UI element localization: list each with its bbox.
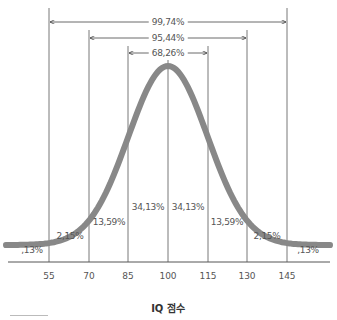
footnote-divider [10,315,48,316]
x-tick-115: 115 [199,271,216,281]
x-tick-100: 100 [159,271,176,281]
segment-label-70-85: 13,59% [93,217,126,227]
x-tick-55: 55 [43,271,54,281]
segment-label-left-tail: ,13% [21,245,43,255]
segment-label-55-70: 2,15% [56,231,83,241]
x-tick-85: 85 [122,271,133,281]
segment-label-130-145: 2,15% [253,231,280,241]
segment-label-115-130: 13,59% [211,217,244,227]
range-label-95: 95,44% [149,33,188,43]
range-label-99: 99,74% [149,17,188,27]
segment-label-85-100: 34,13% [132,202,165,212]
segment-label-right-tail: ,13% [297,245,319,255]
x-tick-130: 130 [238,271,255,281]
x-axis-title: IQ 점수 [151,300,185,315]
x-tick-70: 70 [83,271,94,281]
segment-label-100-115: 34,13% [172,202,205,212]
x-tick-145: 145 [278,271,295,281]
range-label-68: 68,26% [149,48,188,58]
